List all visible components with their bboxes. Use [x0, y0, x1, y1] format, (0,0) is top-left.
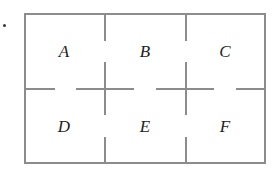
- room-label-e: E: [140, 117, 150, 137]
- room-label-f: F: [220, 117, 230, 137]
- outer-wall-bottom: [24, 162, 266, 164]
- room-label-a: A: [59, 42, 69, 62]
- room-label-b: B: [140, 42, 150, 62]
- left-vertical-wall-middle: [104, 62, 106, 115]
- left-vertical-wall-top: [104, 13, 106, 41]
- bullet-dot: [3, 24, 6, 27]
- right-vertical-wall-middle: [185, 62, 187, 115]
- right-vertical-wall-top: [185, 13, 187, 41]
- room-label-c: C: [219, 42, 230, 62]
- left-vertical-wall-bottom: [104, 137, 106, 164]
- middle-wall-segment-4: [236, 88, 266, 90]
- outer-wall-top: [24, 13, 266, 15]
- right-vertical-wall-bottom: [185, 137, 187, 164]
- room-label-d: D: [58, 117, 70, 137]
- middle-wall-segment-1: [24, 88, 55, 90]
